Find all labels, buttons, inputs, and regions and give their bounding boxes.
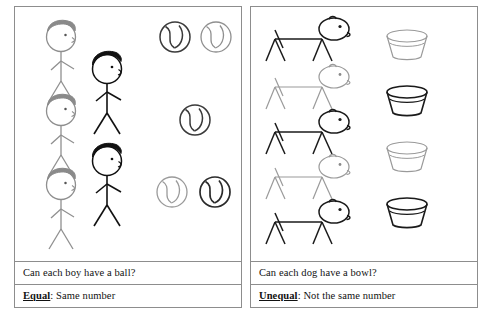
unequal-panel-question: Can each dog have a bowl? — [251, 261, 477, 284]
equal-panel-answer: Equal: Same number — [15, 284, 241, 307]
dog-1 — [266, 16, 350, 61]
equal-answer-keyword: Equal — [23, 290, 50, 301]
dogs-and-bowls-drawing — [251, 7, 477, 261]
worksheet: Can each boy have a ball? Equal: Same nu… — [0, 0, 488, 321]
unequal-panel: Can each dog have a bowl? Unequal: Not t… — [250, 6, 478, 308]
boy-4 — [92, 143, 121, 226]
boy-1 — [47, 20, 76, 101]
dog-5 — [266, 199, 350, 244]
unequal-panel-artwork — [251, 7, 477, 261]
ball-4 — [157, 177, 187, 207]
equal-question-text: Can each boy have a ball? — [23, 267, 135, 278]
dog-4 — [266, 154, 350, 199]
bowl-4 — [387, 198, 427, 228]
ball-1 — [160, 22, 190, 52]
boy-5 — [47, 168, 76, 249]
bowl-1 — [387, 30, 427, 60]
boys-and-balls-drawing — [15, 7, 241, 261]
equal-panel-artwork — [15, 7, 241, 261]
unequal-panel-answer: Unequal: Not the same number — [251, 284, 477, 307]
ball-5 — [200, 177, 230, 207]
bowl-2 — [387, 86, 427, 116]
dog-2 — [266, 64, 350, 109]
unequal-answer-rest: : Not the same number — [298, 290, 396, 301]
ball-2 — [201, 22, 231, 52]
equal-panel-question: Can each boy have a ball? — [15, 261, 241, 284]
equal-panel: Can each boy have a ball? Equal: Same nu… — [14, 6, 242, 308]
ball-3 — [180, 105, 210, 135]
unequal-answer-keyword: Unequal — [259, 290, 298, 301]
equal-answer-rest: : Same number — [50, 290, 115, 301]
boy-3 — [47, 94, 76, 175]
bowl-3 — [387, 142, 427, 172]
boy-2 — [92, 51, 121, 134]
dog-3 — [266, 109, 350, 154]
unequal-question-text: Can each dog have a bowl? — [259, 267, 377, 278]
